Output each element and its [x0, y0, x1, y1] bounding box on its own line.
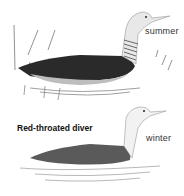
water-reflection — [24, 85, 140, 100]
winter-label: winter — [146, 133, 171, 143]
summer-label: summer — [145, 26, 179, 36]
species-title: Red-throated diver — [17, 123, 93, 133]
summer-bird — [18, 12, 170, 85]
water-ripples — [20, 166, 160, 181]
